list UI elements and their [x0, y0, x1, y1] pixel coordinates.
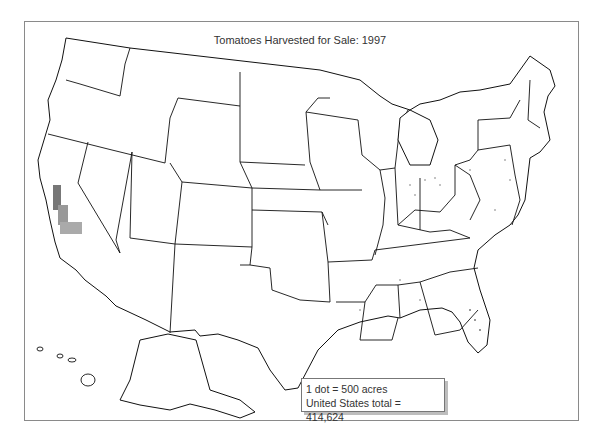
- alaska: [120, 334, 255, 418]
- map-title: Tomatoes Harvested for Sale: 1997: [0, 34, 600, 46]
- legend-total: United States total = 414,624: [306, 396, 440, 424]
- us-map: [0, 0, 600, 437]
- map-legend: 1 dot = 500 acres United States total = …: [301, 378, 445, 412]
- hawaii: [37, 347, 95, 386]
- legend-dot-value: 1 dot = 500 acres: [306, 382, 440, 396]
- contiguous-us-outline: [38, 38, 555, 390]
